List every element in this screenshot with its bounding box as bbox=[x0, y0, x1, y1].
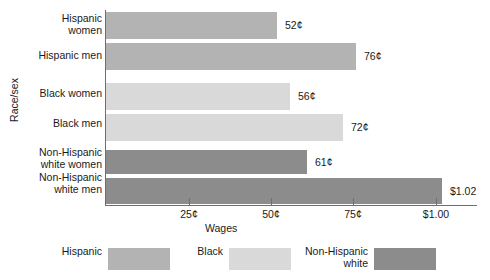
x-tick-mark bbox=[436, 198, 437, 206]
category-label-line: Non-Hispanic bbox=[16, 147, 102, 159]
legend-swatch-black bbox=[229, 248, 291, 270]
category-label-line: white women bbox=[16, 159, 102, 171]
legend-label-line: Hispanic bbox=[40, 246, 102, 258]
legend-label-line: Black bbox=[185, 246, 223, 258]
category-label: Black women bbox=[16, 88, 102, 100]
bar-black-men bbox=[106, 114, 343, 141]
bar-value-label: $1.02 bbox=[450, 185, 476, 197]
x-tick-mark bbox=[271, 198, 272, 206]
category-label: Hispanic women bbox=[16, 13, 102, 36]
category-label-line: women bbox=[16, 25, 102, 37]
legend-label: Non-Hispanic white bbox=[293, 246, 368, 269]
bar-value-label: 52¢ bbox=[285, 19, 303, 31]
x-tick-label: 25¢ bbox=[159, 208, 219, 220]
bar-hispanic-men bbox=[106, 43, 356, 70]
category-label: Hispanic men bbox=[16, 50, 102, 62]
bar-value-label: 56¢ bbox=[298, 90, 316, 102]
x-tick-mark bbox=[189, 198, 190, 206]
category-label-line: Hispanic bbox=[16, 13, 102, 25]
category-axis-labels: Hispanic women Hispanic men Black women … bbox=[16, 0, 102, 210]
x-tick-label: $1.00 bbox=[406, 208, 466, 220]
bar-value-label: 61¢ bbox=[315, 156, 333, 168]
x-axis-line bbox=[105, 205, 477, 206]
x-tick-label: 75¢ bbox=[323, 208, 383, 220]
category-label: Black men bbox=[16, 118, 102, 130]
legend-swatch-hispanic bbox=[108, 248, 170, 270]
legend-label: Hispanic bbox=[40, 246, 102, 258]
category-label: Non-Hispanic white women bbox=[16, 147, 102, 170]
legend-label-line: Non-Hispanic bbox=[293, 246, 368, 258]
bar-nonhispanic-white-men bbox=[106, 178, 442, 204]
legend-label-line: white bbox=[293, 258, 368, 270]
x-tick-mark bbox=[353, 198, 354, 206]
category-label-line: Black men bbox=[16, 118, 102, 130]
bar-nonhispanic-white-women bbox=[106, 150, 307, 174]
category-label: Non-Hispanic white men bbox=[16, 172, 102, 195]
bar-value-label: 76¢ bbox=[364, 50, 382, 62]
category-label-line: Non-Hispanic bbox=[16, 172, 102, 184]
category-label-line: Black women bbox=[16, 88, 102, 100]
wages-bar-chart: Race/sex Hispanic women Hispanic men Bla… bbox=[0, 0, 490, 280]
legend-swatch-nonhispanic-white bbox=[374, 248, 436, 270]
chart-legend: Hispanic Black Non-Hispanic white bbox=[0, 246, 490, 276]
x-axis-title: Wages bbox=[205, 222, 237, 234]
plot-area: 52¢ 76¢ 56¢ 72¢ 61¢ $1.02 25¢ 50¢ 75¢ $1… bbox=[105, 10, 485, 206]
category-label-line: white men bbox=[16, 184, 102, 196]
category-label-line: Hispanic men bbox=[16, 50, 102, 62]
x-tick-label: 50¢ bbox=[241, 208, 301, 220]
bar-value-label: 72¢ bbox=[351, 121, 369, 133]
bar-hispanic-women bbox=[106, 12, 277, 39]
legend-label: Black bbox=[185, 246, 223, 258]
bar-black-women bbox=[106, 83, 290, 110]
